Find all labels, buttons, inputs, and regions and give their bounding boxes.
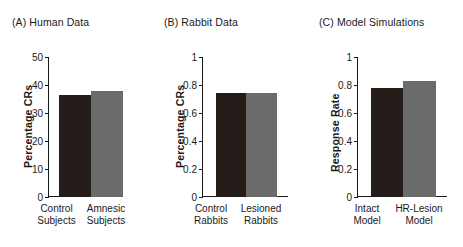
panel-c-model-simulations: (C) Model Simulations Response Rate 0 0.… <box>307 0 463 247</box>
panel-c-tick-label-4: 0.8 <box>338 80 352 91</box>
panel-b-category-label-1: Lesioned Rabbits <box>235 203 287 227</box>
panel-a-tick-label-0: 0 <box>37 192 43 203</box>
panel-b-y-axis-label: Percentage CRs <box>174 85 186 168</box>
panel-b-tick-label-2: 0.4 <box>183 136 197 147</box>
panel-a-tick-3 <box>45 113 49 114</box>
panel-a-plot-area: 0 10 20 30 40 50 <box>48 57 136 197</box>
panel-c-tick-5 <box>354 57 358 58</box>
panel-c-y-axis-label: Response Rate <box>329 94 341 172</box>
panel-b-tick-2 <box>199 141 203 142</box>
panel-b-tick-3 <box>199 113 203 114</box>
panel-b-tick-label-0: 0 <box>191 192 197 203</box>
panel-c-cat1-line2: Model <box>390 215 448 227</box>
panel-c-cat0-line1: Intact <box>346 203 388 215</box>
panel-a-category-label-0: Control Subjects <box>34 203 79 227</box>
panel-a-tick-label-5: 50 <box>32 52 43 63</box>
panel-a-tick-2 <box>45 141 49 142</box>
panel-c-tick-label-1: 0.2 <box>338 164 352 175</box>
panel-b-title: (B) Rabbit Data <box>164 16 238 28</box>
panel-c-category-label-0: Intact Model <box>346 203 388 227</box>
panel-a-bar-control-subjects <box>59 95 91 197</box>
panel-c-tick-0 <box>354 197 358 198</box>
panel-b-bar-lesioned-rabbits <box>246 93 277 197</box>
panel-b-cat1-line2: Rabbits <box>235 215 287 227</box>
panel-a-category-label-1: Amnesic Subjects <box>82 203 130 227</box>
panel-c-tick-label-2: 0.4 <box>338 136 352 147</box>
panel-b-cat0-line2: Rabbits <box>188 215 234 227</box>
panel-a-tick-0 <box>45 197 49 198</box>
panel-b-tick-label-4: 0.8 <box>183 80 197 91</box>
panel-b-cat1-line1: Lesioned <box>235 203 287 215</box>
panel-c-tick-label-3: 0.6 <box>338 108 352 119</box>
panel-a-tick-5 <box>45 57 49 58</box>
panel-a-tick-label-1: 10 <box>32 164 43 175</box>
panel-a-tick-label-3: 30 <box>32 108 43 119</box>
panel-b-tick-label-1: 0.2 <box>183 164 197 175</box>
panel-a-tick-4 <box>45 85 49 86</box>
panel-b-tick-label-3: 0.6 <box>183 108 197 119</box>
panel-a-y-axis-line <box>48 57 49 197</box>
panel-a-tick-label-2: 20 <box>32 136 43 147</box>
panel-a-cat1-line1: Amnesic <box>82 203 130 215</box>
panel-c-cat1-line1: HR-Lesion <box>390 203 448 215</box>
panel-a-y-axis-label: Percentage CRs <box>22 85 34 168</box>
panel-b-tick-label-5: 1 <box>191 52 197 63</box>
panel-c-tick-label-0: 0 <box>346 192 352 203</box>
panel-c-title: (C) Model Simulations <box>319 16 424 28</box>
panel-c-tick-2 <box>354 141 358 142</box>
panel-c-tick-1 <box>354 169 358 170</box>
figure-three-panel-bar-charts: (A) Human Data Percentage CRs 0 10 20 30… <box>0 0 463 247</box>
panel-c-cat0-line2: Model <box>346 215 388 227</box>
panel-c-y-axis-line <box>357 57 358 197</box>
panel-a-tick-1 <box>45 169 49 170</box>
panel-a-human-data: (A) Human Data Percentage CRs 0 10 20 30… <box>0 0 152 247</box>
panel-a-title: (A) Human Data <box>12 16 89 28</box>
panel-b-y-axis-line <box>202 57 203 197</box>
panel-b-tick-4 <box>199 85 203 86</box>
panel-a-tick-label-4: 40 <box>32 80 43 91</box>
panel-a-cat0-line1: Control <box>34 203 79 215</box>
panel-c-tick-3 <box>354 113 358 114</box>
panel-c-bar-intact-model <box>371 88 403 197</box>
panel-c-category-label-1: HR-Lesion Model <box>390 203 448 227</box>
panel-a-cat1-line2: Subjects <box>82 215 130 227</box>
panel-c-tick-label-5: 1 <box>346 52 352 63</box>
panel-b-cat0-line1: Control <box>188 203 234 215</box>
panel-a-cat0-line2: Subjects <box>34 215 79 227</box>
panel-a-bar-amnesic-subjects <box>91 91 123 197</box>
panel-b-tick-5 <box>199 57 203 58</box>
panel-c-bar-hr-lesion-model <box>403 81 436 197</box>
panel-b-tick-0 <box>199 197 203 198</box>
panel-b-category-label-0: Control Rabbits <box>188 203 234 227</box>
panel-c-tick-4 <box>354 85 358 86</box>
panel-c-plot-area: 0 0.2 0.4 0.6 0.8 1 <box>357 57 447 197</box>
panel-b-rabbit-data: (B) Rabbit Data Percentage CRs 0 0.2 0.4… <box>152 0 307 247</box>
panel-b-bar-control-rabbits <box>216 93 246 197</box>
panel-b-plot-area: 0 0.2 0.4 0.6 0.8 1 <box>202 57 288 197</box>
panel-b-tick-1 <box>199 169 203 170</box>
